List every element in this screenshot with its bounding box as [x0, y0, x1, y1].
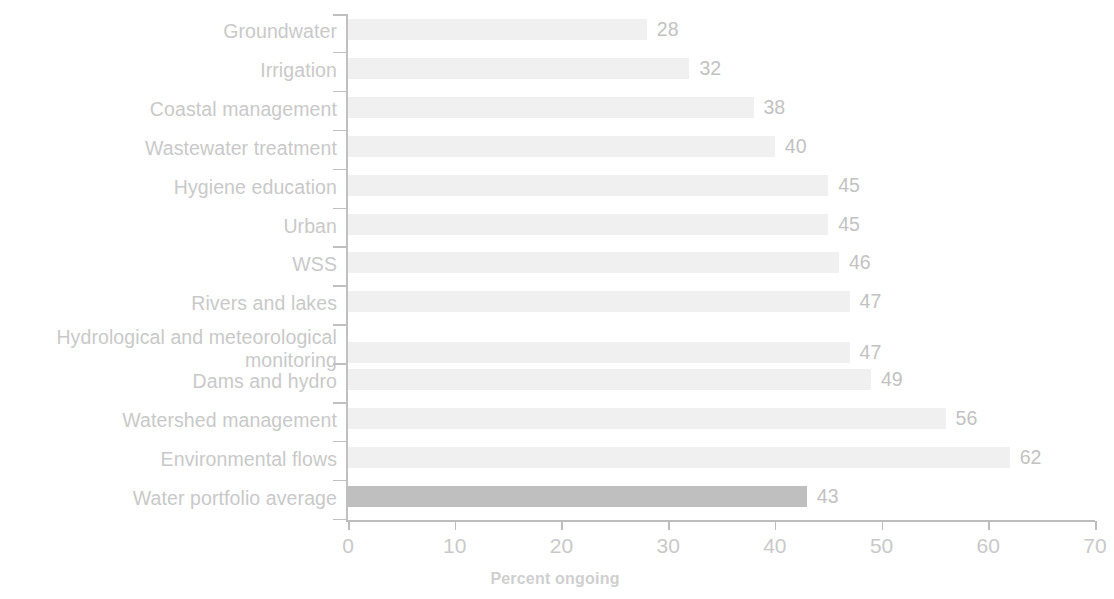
bar [348, 19, 647, 40]
bar [348, 369, 871, 390]
y-axis-tick [333, 208, 347, 210]
bar-row: Rivers and lakes47 [0, 286, 1114, 323]
x-axis-tick [1095, 521, 1097, 530]
x-axis-tick [775, 521, 777, 530]
bar [348, 136, 775, 157]
y-axis-tick [333, 324, 347, 326]
category-label: Rivers and lakes [0, 292, 337, 315]
bar [348, 447, 1010, 468]
bar-row: Dams and hydro49 [0, 364, 1114, 401]
bar-row: Coastal management38 [0, 92, 1114, 129]
x-axis-tick-label: 40 [755, 533, 795, 558]
bar-row: Wastewater treatment40 [0, 131, 1114, 168]
bar [348, 97, 754, 118]
bar-row: Hygiene education45 [0, 170, 1114, 207]
bar-row: Groundwater28 [0, 14, 1114, 51]
x-axis-tick [455, 521, 457, 530]
bar-row: Watershed management56 [0, 403, 1114, 440]
y-axis-tick [333, 130, 347, 132]
category-label: Coastal management [0, 98, 337, 121]
category-label: Environmental flows [0, 448, 337, 471]
bar-value-label: 45 [838, 214, 860, 235]
x-axis-tick-label: 60 [968, 533, 1008, 558]
bar [348, 408, 946, 429]
category-label: Wastewater treatment [0, 137, 337, 160]
x-axis-tick-label: 30 [648, 533, 688, 558]
bar-value-label: 47 [860, 291, 882, 312]
x-axis-tick-label: 70 [1075, 533, 1114, 558]
x-axis-tick [988, 521, 990, 530]
bar-value-label: 32 [699, 58, 721, 79]
bar [348, 214, 828, 235]
x-axis-title-text: Percent ongoing [490, 570, 619, 588]
y-axis-tick [333, 14, 347, 16]
y-axis-tick [333, 363, 347, 365]
x-axis-title: Percent ongoing [0, 570, 1114, 588]
bar [348, 58, 689, 79]
category-label: Irrigation [0, 59, 337, 82]
category-label: Urban [0, 215, 337, 238]
x-axis-line [346, 520, 1095, 522]
bar-value-label: 43 [817, 486, 839, 507]
bar-value-label: 38 [764, 97, 786, 118]
x-axis-tick-label: 10 [435, 533, 475, 558]
y-axis-tick [333, 519, 347, 521]
bar-value-label: 49 [881, 369, 903, 390]
bar-chart: Groundwater28Irrigation32Coastal managem… [0, 0, 1114, 599]
x-axis-tick [668, 521, 670, 530]
y-axis-tick [333, 169, 347, 171]
bar-value-label: 28 [657, 19, 679, 40]
bar-value-label: 46 [849, 252, 871, 273]
y-axis-tick [333, 246, 347, 248]
bar-highlight [348, 486, 807, 507]
bar-row: Irrigation32 [0, 53, 1114, 90]
bar [348, 252, 839, 273]
bar-row: Environmental flows62 [0, 442, 1114, 479]
x-axis-tick-label: 20 [541, 533, 581, 558]
category-label: WSS [0, 253, 337, 276]
bar-row: Urban45 [0, 209, 1114, 246]
category-label: Groundwater [0, 20, 337, 43]
category-label: Watershed management [0, 409, 337, 432]
bar-value-label: 47 [860, 342, 882, 363]
category-label: Hygiene education [0, 176, 337, 199]
bar [348, 175, 828, 196]
category-label: Dams and hydro [0, 370, 337, 393]
y-axis-tick [333, 52, 347, 54]
bar-value-label: 40 [785, 136, 807, 157]
x-axis-tick [561, 521, 563, 530]
y-axis-tick [333, 285, 347, 287]
category-label: Water portfolio average [0, 487, 337, 510]
bar-row: Water portfolio average43 [0, 481, 1114, 518]
bar [348, 342, 850, 363]
bar-value-label: 56 [956, 408, 978, 429]
x-axis-tick [348, 521, 350, 530]
y-axis-tick [333, 402, 347, 404]
y-axis-tick [333, 441, 347, 443]
x-axis-tick-label: 0 [328, 533, 368, 558]
x-axis-tick [882, 521, 884, 530]
bar-value-label: 45 [838, 175, 860, 196]
bar-row: Hydrological and meteorological monitori… [0, 325, 1114, 362]
y-axis-tick [333, 480, 347, 482]
plot-area: Groundwater28Irrigation32Coastal managem… [0, 0, 1114, 599]
bar-value-label: 62 [1020, 447, 1042, 468]
x-axis-tick-label: 50 [862, 533, 902, 558]
bar [348, 291, 850, 312]
y-axis-tick [333, 91, 347, 93]
bar-row: WSS46 [0, 247, 1114, 284]
